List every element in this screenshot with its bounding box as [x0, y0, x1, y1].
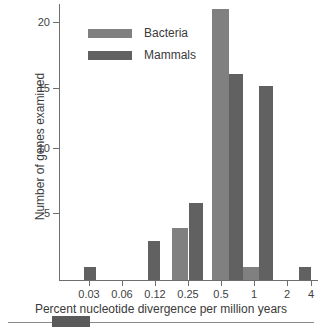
x-tick-mark [221, 281, 222, 286]
x-tick-label: 0.5 [213, 288, 228, 300]
legend-label-mammals: Mammals [144, 48, 196, 63]
x-tick-mark [254, 281, 255, 286]
x-tick-mark [287, 281, 288, 286]
legend-item-mammals: Mammals [88, 48, 208, 66]
y-tick-mark [53, 148, 59, 149]
bar-mammals-3.4 [299, 267, 311, 280]
y-axis-line [59, 4, 60, 281]
x-tick-mark [89, 281, 90, 286]
y-tick-label: 20 [26, 17, 50, 28]
histogram-figure: 2015105 0.030.060.120.250.5124 Number of… [0, 0, 322, 331]
bar-mammals-0.12 [148, 241, 160, 280]
y-tick-mark [53, 88, 59, 89]
chart-legend: Bacteria Mammals [88, 26, 208, 70]
bar-bacteria-0.5 [212, 9, 229, 280]
bar-mammals-1.6 [259, 86, 273, 280]
x-tick-mark [311, 281, 312, 286]
bar-mammals-0.35 [189, 203, 203, 280]
x-tick-label: 1 [251, 288, 257, 300]
legend-swatch-mammals [88, 51, 132, 60]
bar-mammals-0.03 [84, 267, 96, 280]
legend-label-bacteria: Bacteria [144, 26, 188, 41]
x-tick-label: 4 [308, 288, 314, 300]
y-axis-title: Number of genes examined [34, 37, 47, 257]
x-tick-mark [188, 281, 189, 286]
x-tick-mark [155, 281, 156, 286]
bar-bacteria-0.25 [172, 228, 188, 280]
y-tick-mark [53, 213, 59, 214]
legend-swatch-bacteria [88, 29, 132, 38]
x-axis-title: Percent nucleotide divergence per millio… [0, 302, 322, 316]
x-tick-label: 0.12 [144, 288, 165, 300]
x-tick-mark [122, 281, 123, 286]
x-tick-label: 2 [284, 288, 290, 300]
x-tick-label: 0.03 [78, 288, 99, 300]
bar-mammals-0.7 [229, 74, 243, 280]
x-tick-label: 0.06 [111, 288, 132, 300]
legend-item-bacteria: Bacteria [88, 26, 208, 44]
bottom-marker-block [52, 316, 90, 327]
y-tick-mark [53, 22, 59, 23]
bar-bacteria-1 [243, 267, 259, 280]
x-tick-label: 0.25 [177, 288, 198, 300]
